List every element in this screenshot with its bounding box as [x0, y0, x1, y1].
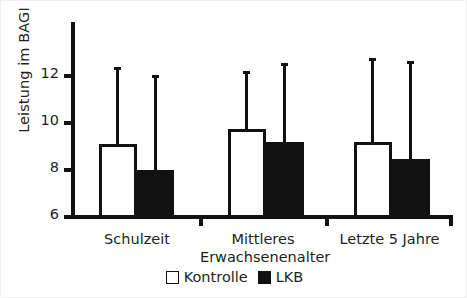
x-label-mittleres-erwachsenenalter: Mittleres Erwachsenenalter — [200, 230, 326, 266]
y-tick-10 — [64, 121, 73, 125]
bar-lkb-schulzeit — [137, 170, 174, 215]
legend-label-kontrolle: Kontrolle — [184, 269, 248, 285]
errorbar-cap-kontrolle-schulzeit — [114, 67, 121, 70]
x-tick-3 — [449, 219, 453, 226]
errorbar-kontrolle-mittleres-erwachsenenalter — [245, 73, 248, 131]
bar-lkb-mittleres-erwachsenenalter — [266, 142, 304, 215]
y-tick-label-12: 12 — [19, 66, 59, 80]
x-label-letzte-5-jahre: Letzte 5 Jahre — [327, 230, 452, 248]
errorbar-cap-lkb-mittleres-erwachsenenalter — [281, 63, 288, 66]
errorbar-kontrolle-schulzeit — [116, 69, 119, 145]
x-label-schulzeit: Schulzeit — [76, 230, 198, 248]
errorbar-kontrolle-letzte-5-jahre — [371, 60, 374, 144]
legend-entry-kontrolle: Kontrolle — [166, 269, 248, 285]
errorbar-lkb-letzte-5-jahre — [409, 63, 412, 161]
errorbar-lkb-schulzeit — [154, 77, 157, 171]
errorbar-cap-kontrolle-mittleres-erwachsenenalter — [243, 71, 250, 74]
y-tick-label-6: 6 — [19, 207, 59, 221]
legend: Kontrolle LKB — [1, 269, 467, 285]
legend-entry-lkb: LKB — [258, 269, 304, 285]
legend-label-lkb: LKB — [276, 269, 304, 285]
y-tick-8 — [64, 168, 73, 172]
bar-kontrolle-letzte-5-jahre — [354, 142, 392, 215]
x-axis-line — [71, 215, 453, 219]
white-square-icon — [166, 271, 179, 284]
errorbar-lkb-mittleres-erwachsenenalter — [283, 65, 286, 144]
black-square-icon — [258, 271, 271, 284]
errorbar-cap-lkb-schulzeit — [152, 75, 159, 78]
y-axis-line — [71, 22, 75, 218]
errorbar-cap-lkb-letzte-5-jahre — [407, 61, 414, 64]
y-tick-12 — [64, 74, 73, 78]
errorbar-cap-kontrolle-letzte-5-jahre — [369, 58, 376, 61]
y-tick-label-8: 8 — [19, 160, 59, 174]
bar-chart-figure: Leistung im BAGI 12 10 8 6 Schulzeit — [0, 0, 467, 298]
bar-kontrolle-schulzeit — [99, 144, 137, 215]
x-tick-2 — [325, 219, 329, 226]
y-tick-label-10: 10 — [19, 113, 59, 127]
bar-lkb-letzte-5-jahre — [392, 159, 430, 215]
y-tick-6 — [64, 215, 73, 219]
bar-kontrolle-mittleres-erwachsenenalter — [228, 129, 266, 215]
x-tick-1 — [199, 219, 203, 226]
